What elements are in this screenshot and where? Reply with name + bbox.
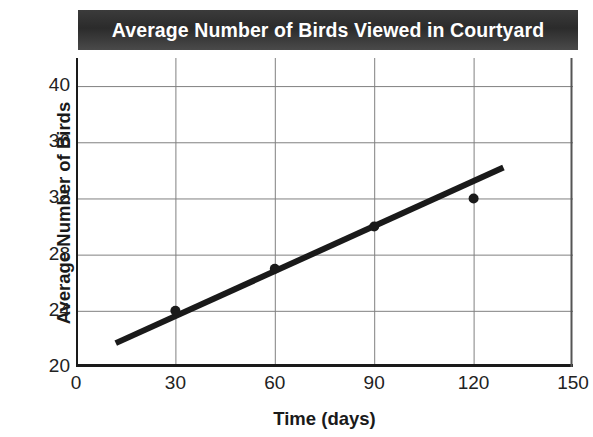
data-point (469, 193, 479, 203)
x-tick-label: 90 (344, 372, 404, 394)
x-axis-title: Time (days) (76, 408, 573, 430)
y-tick-label: 24 (22, 299, 70, 321)
y-tick-label: 28 (22, 243, 70, 265)
chart-title-banner: Average Number of Birds Viewed in Courty… (78, 10, 578, 50)
y-tick-label: 40 (22, 74, 70, 96)
data-point (369, 222, 379, 232)
y-tick-label: 32 (22, 186, 70, 208)
x-tick-label: 0 (46, 372, 106, 394)
x-tick-label: 60 (245, 372, 305, 394)
plot-background (76, 58, 573, 367)
data-point (170, 306, 180, 316)
x-tick-label: 120 (444, 372, 504, 394)
y-tick-label: 36 (22, 130, 70, 152)
x-tick-label: 30 (145, 372, 205, 394)
x-tick-label: 150 (543, 372, 593, 394)
data-point (270, 264, 280, 274)
plot-area (76, 58, 573, 367)
chart-title: Average Number of Birds Viewed in Courty… (112, 19, 544, 42)
plot-svg (76, 58, 573, 367)
